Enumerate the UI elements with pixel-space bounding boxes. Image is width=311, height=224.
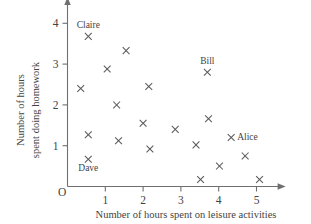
data-point-marker xyxy=(113,102,120,109)
data-point-marker xyxy=(77,85,84,92)
data-point-label-bill: Bill xyxy=(200,56,215,66)
data-point-labels: ClaireDaveBillAlice xyxy=(77,20,258,173)
data-point-label-dave: Dave xyxy=(78,163,98,173)
data-points xyxy=(77,33,263,183)
x-tick-label: 1 xyxy=(102,194,108,206)
y-axis-title-line2: spent doing homework xyxy=(30,61,41,158)
axis-tick-labels: 123451234 xyxy=(53,17,260,205)
data-point-marker xyxy=(145,83,152,90)
origin-label: O xyxy=(58,186,66,198)
plot-area: 123451234 ClaireDaveBillAlice O Number o… xyxy=(0,0,311,224)
data-point-marker xyxy=(197,176,204,183)
x-tick-label: 4 xyxy=(216,194,222,206)
x-axis-title: Number of hours spent on leisure activit… xyxy=(96,209,277,220)
y-tick-label: 2 xyxy=(53,99,59,111)
data-point-label-claire: Claire xyxy=(77,20,100,30)
y-axis-title-line1: Number of hours xyxy=(15,74,26,146)
y-tick-label: 1 xyxy=(53,140,59,152)
x-tick-label: 3 xyxy=(178,194,184,206)
data-point-marker xyxy=(140,120,147,127)
data-point-marker xyxy=(85,33,92,40)
data-point-marker xyxy=(193,141,200,148)
data-point-marker xyxy=(115,137,122,144)
y-axis-arrow xyxy=(64,0,70,5)
data-point-marker xyxy=(205,115,212,122)
scatter-chart: 123451234 ClaireDaveBillAlice O Number o… xyxy=(0,0,311,224)
data-point-marker xyxy=(172,126,179,133)
data-point-marker xyxy=(123,47,130,54)
y-tick-label: 3 xyxy=(53,58,59,70)
data-point-marker xyxy=(85,156,92,163)
data-point-marker xyxy=(228,134,235,141)
data-point-marker xyxy=(216,163,223,170)
x-tick-label: 5 xyxy=(254,194,260,206)
data-point-label-alice: Alice xyxy=(237,132,258,142)
x-axis-arrow xyxy=(278,183,286,189)
data-point-marker xyxy=(104,66,111,73)
y-tick-label: 4 xyxy=(53,17,59,29)
data-point-marker xyxy=(242,153,249,160)
data-point-marker xyxy=(147,146,154,153)
x-tick-label: 2 xyxy=(140,194,146,206)
data-point-marker xyxy=(204,69,211,76)
data-point-marker xyxy=(256,176,263,183)
data-point-marker xyxy=(85,131,92,138)
